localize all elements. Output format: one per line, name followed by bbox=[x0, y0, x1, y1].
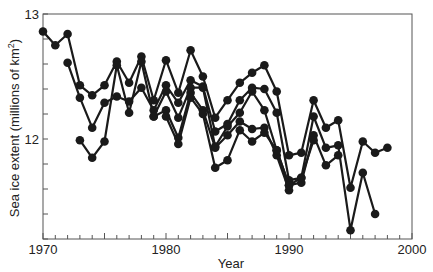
data-point bbox=[297, 173, 306, 182]
x-tick-label: 1970 bbox=[29, 242, 58, 257]
data-point bbox=[359, 168, 368, 177]
data-point bbox=[223, 96, 232, 105]
data-point bbox=[100, 81, 109, 90]
data-point bbox=[137, 83, 146, 92]
data-point bbox=[248, 125, 257, 134]
data-point bbox=[260, 106, 269, 115]
data-point bbox=[285, 181, 294, 190]
data-point bbox=[334, 116, 343, 125]
x-tick-label: 1980 bbox=[152, 242, 181, 257]
data-point bbox=[113, 61, 122, 70]
data-point bbox=[174, 113, 183, 122]
data-point bbox=[125, 78, 134, 87]
data-point bbox=[322, 143, 331, 152]
x-axis-label: Year bbox=[218, 256, 245, 271]
x-tick-label: 1990 bbox=[275, 242, 304, 257]
y-axis-label-main: Sea ice extent (millions of km bbox=[7, 48, 22, 217]
data-point bbox=[186, 93, 195, 102]
data-point bbox=[236, 108, 245, 117]
data-point bbox=[248, 68, 257, 77]
data-point bbox=[297, 148, 306, 157]
data-point bbox=[309, 136, 318, 145]
data-point bbox=[88, 153, 97, 162]
data-point bbox=[236, 78, 245, 87]
data-point bbox=[174, 140, 183, 149]
data-point bbox=[186, 46, 195, 55]
x-axis-ticks bbox=[43, 233, 412, 239]
data-point bbox=[272, 87, 281, 96]
series-5 bbox=[162, 93, 318, 189]
data-point bbox=[76, 93, 85, 102]
data-point bbox=[334, 141, 343, 150]
y-axis-ticks bbox=[43, 14, 48, 239]
data-point bbox=[137, 57, 146, 66]
data-point bbox=[223, 122, 232, 131]
x-axis-tick-labels: 1970198019902000 bbox=[29, 242, 427, 257]
data-point bbox=[162, 112, 171, 121]
data-point bbox=[100, 137, 109, 146]
data-point bbox=[76, 136, 85, 145]
data-point bbox=[223, 131, 232, 140]
data-point bbox=[260, 128, 269, 137]
data-point bbox=[309, 112, 318, 121]
data-point bbox=[113, 92, 122, 101]
data-point bbox=[223, 156, 232, 165]
data-point bbox=[211, 163, 220, 172]
data-point bbox=[162, 56, 171, 65]
data-point bbox=[199, 72, 208, 81]
series-2 bbox=[63, 58, 379, 234]
data-point bbox=[248, 87, 257, 96]
y-axis-label: Sea ice extent (millions of km2) bbox=[6, 39, 22, 217]
data-point bbox=[272, 146, 281, 155]
data-point bbox=[162, 87, 171, 96]
data-point bbox=[63, 58, 72, 67]
sea-ice-chart: 1970198019902000 1213 Year Sea ice exten… bbox=[0, 0, 433, 272]
y-axis-label-end: ) bbox=[7, 39, 22, 43]
data-point bbox=[88, 91, 97, 100]
data-point bbox=[174, 98, 183, 107]
data-point bbox=[272, 108, 281, 117]
y-tick-label: 12 bbox=[25, 132, 39, 147]
series-line bbox=[80, 62, 338, 186]
data-point bbox=[63, 30, 72, 39]
data-point bbox=[149, 112, 158, 121]
data-series bbox=[39, 27, 392, 234]
data-point bbox=[51, 41, 60, 50]
data-point bbox=[322, 161, 331, 170]
data-point bbox=[236, 96, 245, 105]
data-point bbox=[236, 126, 245, 135]
data-point bbox=[199, 110, 208, 119]
data-point bbox=[39, 27, 48, 36]
data-point bbox=[199, 83, 208, 92]
data-point bbox=[236, 117, 245, 126]
y-axis-tick-labels: 1213 bbox=[25, 7, 39, 147]
data-point bbox=[186, 76, 195, 85]
data-point bbox=[322, 123, 331, 132]
data-point bbox=[248, 137, 257, 146]
data-point bbox=[346, 226, 355, 235]
data-point bbox=[125, 108, 134, 117]
data-point bbox=[88, 123, 97, 132]
x-tick-label: 2000 bbox=[398, 242, 427, 257]
y-tick-label: 13 bbox=[25, 7, 39, 22]
data-point bbox=[371, 210, 380, 219]
data-point bbox=[383, 143, 392, 152]
data-point bbox=[260, 85, 269, 94]
data-point bbox=[260, 61, 269, 70]
data-point bbox=[334, 151, 343, 160]
data-point bbox=[346, 183, 355, 192]
data-point bbox=[359, 137, 368, 146]
data-point bbox=[309, 96, 318, 105]
data-point bbox=[371, 148, 380, 157]
data-point bbox=[100, 98, 109, 107]
